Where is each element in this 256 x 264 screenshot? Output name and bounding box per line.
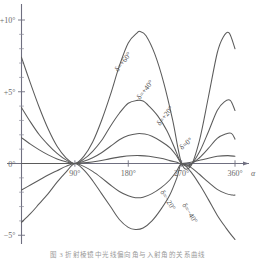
label-group: δ=+60°δ=+40°δ=+20°δ=0°δ=−20°δ=−40°	[112, 50, 199, 225]
figure-caption: 图 3 折射棱镜中光线偏向角与入射角的关系曲线	[0, 249, 256, 259]
y-tick-label: +5°	[4, 88, 16, 97]
figure-container: −5°0°+5°+10°90°180°270°360°α δ=+60°δ=+40…	[0, 0, 256, 264]
x-tick-label: 90°	[69, 169, 80, 178]
chart-canvas: −5°0°+5°+10°90°180°270°360°α δ=+60°δ=+40…	[0, 0, 256, 264]
x-tick-label: 360°	[227, 169, 242, 178]
curve-label: δ=0°	[178, 135, 195, 151]
y-tick-label: 0°	[8, 160, 15, 169]
y-tick-label: −5°	[4, 231, 16, 240]
curve-label: δ=+60°	[112, 50, 133, 73]
curve-group	[22, 31, 236, 239]
curve-label: δ=+40°	[134, 78, 155, 101]
y-tick-label: +10°	[0, 16, 16, 25]
x-axis-arrow-icon	[243, 161, 249, 165]
x-axis-symbol: α	[251, 169, 256, 178]
x-tick-label: 270°	[174, 169, 189, 178]
x-tick-label: 180°	[121, 169, 136, 178]
curve-label: δ=−40°	[180, 201, 199, 225]
